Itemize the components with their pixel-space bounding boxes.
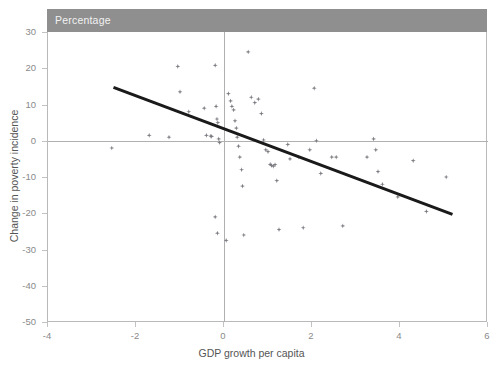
percentage-header-band: Percentage <box>47 9 487 32</box>
y-axis-title: Change in poverty incidence <box>8 66 20 286</box>
x-axis-tick-label: 0 <box>208 330 238 341</box>
data-point <box>167 135 172 140</box>
data-point <box>312 86 317 91</box>
data-point <box>241 233 246 238</box>
y-axis-tick-label: -50 <box>6 316 36 327</box>
x-axis-tick-label: 6 <box>472 330 502 341</box>
data-point <box>147 133 152 138</box>
y-axis-tick <box>42 105 47 106</box>
data-point <box>213 63 218 68</box>
y-axis-tick <box>42 286 47 287</box>
data-point <box>256 97 261 102</box>
data-point <box>285 142 290 147</box>
data-point <box>376 169 381 174</box>
data-point <box>334 155 339 160</box>
data-point <box>233 118 238 123</box>
x-axis-tick-label: -4 <box>32 330 62 341</box>
x-axis-tick <box>487 322 488 327</box>
data-point <box>213 214 218 219</box>
data-point <box>318 171 323 176</box>
data-point <box>259 111 264 116</box>
data-point <box>236 144 241 149</box>
data-point <box>226 91 231 96</box>
data-point <box>204 133 209 138</box>
y-axis-tick <box>42 68 47 69</box>
zero-line-vertical <box>224 32 225 322</box>
data-point <box>246 49 251 54</box>
x-axis-tick-label: -2 <box>120 330 150 341</box>
data-point <box>307 147 312 152</box>
y-axis-tick <box>42 177 47 178</box>
data-point <box>252 100 257 105</box>
scatter-chart-figure: Percentage 3020100-10-20-30-40-50-4-2024… <box>0 0 503 367</box>
zero-line-horizontal <box>48 141 488 142</box>
data-point <box>288 156 293 161</box>
data-point <box>373 147 378 152</box>
x-axis-tick <box>135 322 136 327</box>
data-point <box>237 155 242 160</box>
x-axis-tick <box>47 322 48 327</box>
data-point <box>209 134 214 139</box>
data-point <box>444 175 449 180</box>
plot-area <box>47 32 487 322</box>
y-axis-tick <box>42 32 47 33</box>
x-axis-tick <box>223 322 224 327</box>
data-point <box>175 64 180 69</box>
data-point <box>314 138 319 143</box>
data-point <box>214 117 219 122</box>
data-point <box>249 95 254 100</box>
data-point <box>109 146 114 151</box>
data-point <box>411 158 416 163</box>
data-point <box>340 223 345 228</box>
data-point <box>239 167 244 172</box>
data-point <box>365 155 370 160</box>
x-axis-tick-label: 4 <box>384 330 414 341</box>
trend-line <box>113 86 453 216</box>
y-axis-tick <box>42 141 47 142</box>
data-point <box>228 98 233 103</box>
data-point <box>301 225 306 230</box>
data-point <box>274 178 279 183</box>
data-point <box>329 155 334 160</box>
data-point <box>202 106 207 111</box>
y-axis-tick-label: 30 <box>6 26 36 37</box>
data-point <box>178 89 183 94</box>
x-axis-tick-label: 2 <box>296 330 326 341</box>
y-axis-tick <box>42 213 47 214</box>
data-point <box>234 126 239 131</box>
x-axis-title: GDP growth per capita <box>0 347 503 359</box>
x-axis-tick <box>399 322 400 327</box>
data-point <box>277 227 282 232</box>
data-point <box>240 184 245 189</box>
x-axis-tick <box>311 322 312 327</box>
data-point <box>424 209 429 214</box>
data-point <box>215 231 220 236</box>
data-point <box>214 104 219 109</box>
percentage-header-label: Percentage <box>55 13 111 27</box>
y-axis-tick <box>42 250 47 251</box>
